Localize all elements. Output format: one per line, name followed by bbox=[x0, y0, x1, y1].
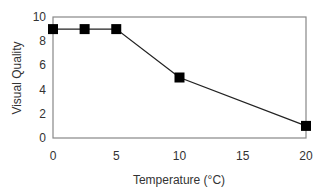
y-tick-label: 0 bbox=[39, 131, 46, 145]
x-tick-label: 10 bbox=[173, 149, 187, 163]
data-point-marker bbox=[80, 24, 90, 34]
y-tick-label: 8 bbox=[39, 34, 46, 48]
x-axis-ticks: 05101520 bbox=[50, 149, 313, 163]
x-tick-label: 0 bbox=[50, 149, 57, 163]
x-tick-label: 20 bbox=[299, 149, 313, 163]
data-point-marker bbox=[48, 24, 58, 34]
data-point-marker bbox=[301, 121, 311, 131]
y-axis-label: Visual Quality bbox=[10, 41, 24, 114]
y-tick-label: 10 bbox=[33, 10, 47, 24]
x-tick-label: 5 bbox=[113, 149, 120, 163]
y-tick-label: 2 bbox=[39, 107, 46, 121]
line-chart: 0246810 05101520 Visual Quality Temperat… bbox=[0, 0, 317, 194]
data-point-marker bbox=[111, 24, 121, 34]
y-tick-label: 6 bbox=[39, 58, 46, 72]
y-tick-label: 4 bbox=[39, 83, 46, 97]
x-tick-label: 15 bbox=[236, 149, 250, 163]
y-axis-ticks: 0246810 bbox=[33, 10, 47, 145]
data-point-marker bbox=[175, 73, 185, 83]
x-axis-label: Temperature (°C) bbox=[133, 173, 225, 187]
data-series bbox=[48, 24, 311, 131]
